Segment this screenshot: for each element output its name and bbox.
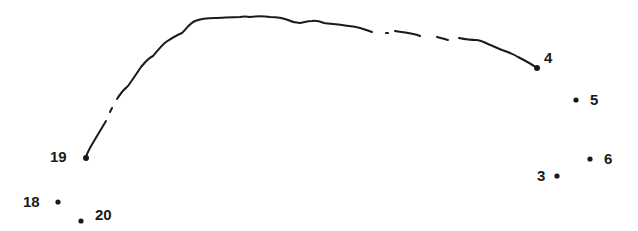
drawn-line bbox=[86, 16, 537, 157]
dot-label-19: 19 bbox=[50, 149, 67, 164]
dot-6[interactable] bbox=[587, 156, 592, 161]
dot-label-20: 20 bbox=[95, 207, 112, 222]
dot-label-5: 5 bbox=[590, 92, 598, 107]
dots bbox=[55, 65, 592, 224]
dot-label-6: 6 bbox=[604, 151, 612, 166]
dot-19[interactable] bbox=[83, 155, 89, 161]
dot-label-3: 3 bbox=[537, 168, 545, 183]
puzzle-canvas bbox=[0, 0, 638, 231]
dot-label-18: 18 bbox=[23, 194, 40, 209]
dot-4[interactable] bbox=[534, 65, 540, 71]
dot-20[interactable] bbox=[78, 218, 83, 223]
dot-18[interactable] bbox=[55, 199, 60, 204]
dot-5[interactable] bbox=[573, 97, 578, 102]
dot-3[interactable] bbox=[554, 173, 559, 178]
dot-label-4: 4 bbox=[544, 50, 552, 65]
